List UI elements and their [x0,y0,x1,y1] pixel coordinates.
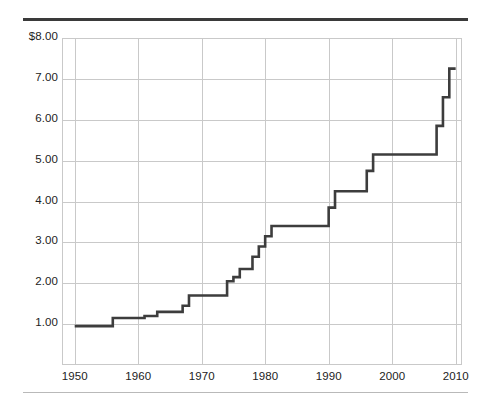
bottom-divider-rule [23,392,468,393]
chart-page: 1.002.003.004.005.006.007.00$8.00 195019… [0,0,491,409]
y-tick-label-6: 6.00 [10,112,58,124]
x-tick-label-1970: 1970 [179,370,225,382]
chart-figure: 1.002.003.004.005.006.007.00$8.00 195019… [0,0,491,409]
x-tick-label-1950: 1950 [52,370,98,382]
y-tick-label-3: 3.00 [10,234,58,246]
y-tick-label-4: 4.00 [10,194,58,206]
x-tick-label-1980: 1980 [242,370,288,382]
y-tick-label-1: 1.00 [10,316,58,328]
x-tick-label-2000: 2000 [369,370,415,382]
x-tick-label-2010: 2010 [433,370,479,382]
y-axis-tick-labels: 1.002.003.004.005.006.007.00$8.00 [0,0,58,409]
y-tick-label-2: 2.00 [10,275,58,287]
x-tick-label-1990: 1990 [306,370,352,382]
y-tick-label-5: 5.00 [10,153,58,165]
x-tick-label-1960: 1960 [115,370,161,382]
y-tick-label-7: 7.00 [10,71,58,83]
gridlines-group [62,38,462,365]
y-tick-label-8: $8.00 [10,30,58,42]
step-chart-svg [0,0,491,409]
